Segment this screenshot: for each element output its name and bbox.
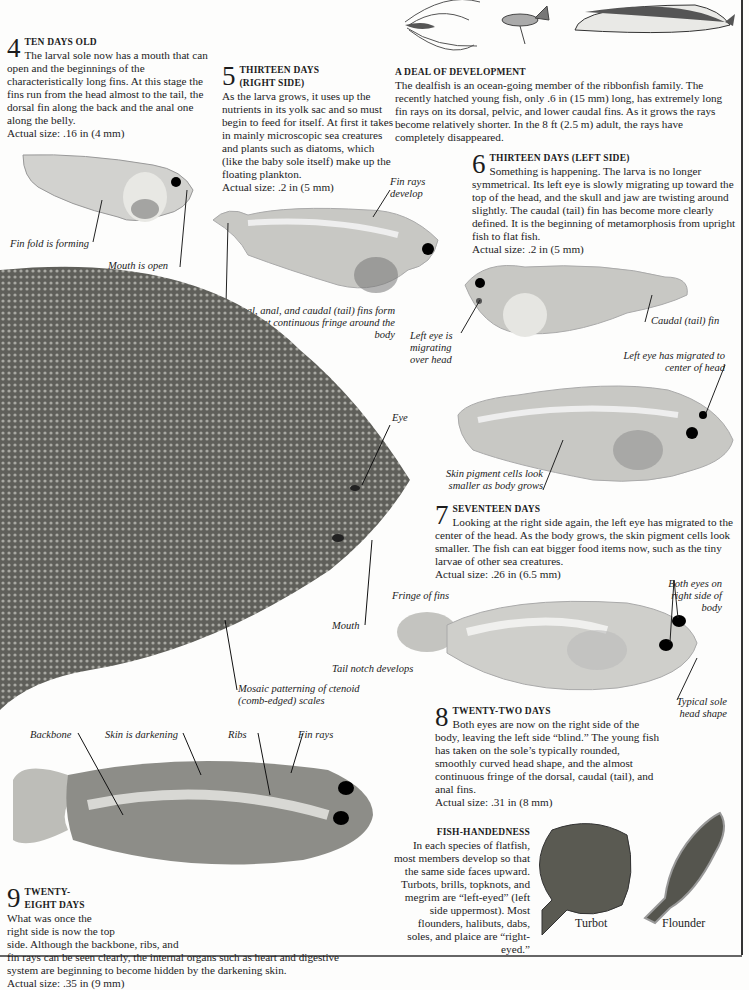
section-body: In each species of flatfish, most member… — [394, 839, 530, 955]
page-right-border — [741, 0, 743, 955]
flounder-caption: Flounder — [662, 917, 705, 930]
label-both-eyes: Both eyes on right side of body — [660, 578, 722, 614]
section-body: Both eyes are now on the right side of t… — [435, 718, 659, 795]
adult-sole — [0, 220, 420, 740]
label-backbone: Backbone — [30, 729, 71, 741]
section-number: 9 — [7, 887, 21, 909]
label-left-eye-center: Left eye has migrated to center of head — [610, 350, 725, 374]
section-number: 6 — [472, 153, 486, 175]
section-body-line: fin rays can be seen clearly, the intern… — [7, 951, 377, 964]
section-body: Looking at the right side again, the lef… — [435, 516, 733, 567]
section-body: The larval sole now has a mouth that can… — [7, 49, 208, 126]
label-skin-darkening: Skin is darkening — [105, 729, 178, 741]
actual-size: Actual size: .16 in (4 mm) — [7, 127, 212, 140]
label-fin-rays: Fin rays — [298, 729, 333, 741]
section-7: 7 SEVENTEEN DAYS Looking at the right si… — [435, 503, 735, 581]
label-eye: Eye — [392, 412, 408, 424]
section-heading: FISH-HANDEDNESS — [390, 826, 530, 839]
section-8: 8 TWENTY-TWO DAYS Both eyes are now on t… — [435, 705, 660, 809]
label-caudal-fin: Caudal (tail) fin — [651, 315, 719, 327]
fish-handedness-section: FISH-HANDEDNESS In each species of flatf… — [390, 826, 530, 956]
section-heading: THIRTEEN DAYS (LEFT SIDE) — [472, 152, 737, 165]
section-heading: THIRTEEN DAYS — [222, 64, 397, 77]
actual-size: Actual size: .31 in (8 mm) — [435, 796, 660, 809]
flounder-illustration — [635, 808, 735, 923]
section-number: 5 — [222, 65, 236, 87]
section-body-line: side. Although the backbone, ribs, and — [7, 938, 377, 951]
section-body: As the larva grows, it uses up the nutri… — [222, 90, 393, 180]
section-number: 7 — [435, 504, 449, 526]
actual-size: Actual size: .35 in (9 mm) — [7, 977, 377, 990]
juvenile-twenty-two-days — [392, 590, 702, 700]
label-sole-head-shape: Typical sole head shape — [672, 696, 727, 720]
actual-size: Actual size: .2 in (5 mm) — [222, 181, 397, 194]
label-mouth: Mouth — [332, 620, 359, 632]
label-fin-rays-develop: Fin rays develop — [390, 176, 440, 200]
section-body-line: right side is now the top — [7, 925, 377, 938]
section-body-line: system are beginning to become hidden by… — [7, 964, 377, 977]
section-heading: TWENTY-TWO DAYS — [435, 705, 660, 718]
section-number: 8 — [435, 706, 449, 728]
section-5: 5 THIRTEEN DAYS (RIGHT SIDE) As the larv… — [222, 64, 397, 194]
section-heading: TEN DAYS OLD — [7, 36, 212, 49]
section-heading-2: EIGHT DAYS — [7, 899, 377, 912]
section-body-line: What was once the — [7, 912, 377, 925]
section-6: 6 THIRTEEN DAYS (LEFT SIDE) Something is… — [472, 152, 737, 256]
dealfish-section: A DEAL OF DEVELOPMENT The dealfish is an… — [395, 66, 735, 144]
dealfish-illustrations — [395, 0, 745, 50]
larva-thirteen-days-left — [455, 255, 695, 355]
turbot-caption: Turbot — [575, 917, 607, 930]
label-tail-notch: Tail notch develops — [332, 663, 413, 675]
section-heading: A DEAL OF DEVELOPMENT — [395, 66, 735, 79]
juvenile-twenty-eight-days — [8, 745, 378, 875]
section-heading: TWENTY- — [7, 886, 377, 899]
section-number: 4 — [7, 37, 21, 59]
section-body: The dealfish is an ocean-going member of… — [395, 79, 722, 143]
turbot-illustration — [532, 815, 632, 930]
section-body: Something is happening. The larva is no … — [472, 165, 735, 242]
label-fringe-of-fins: Fringe of fins — [392, 590, 449, 602]
section-heading: SEVENTEEN DAYS — [435, 503, 735, 516]
label-pigment-cells: Skin pigment cells look smaller as body … — [415, 468, 543, 492]
label-mosaic-scales: Mosaic patterning of ctenoid (comb-edged… — [238, 683, 388, 707]
label-ribs: Ribs — [228, 729, 247, 741]
section-4: 4 TEN DAYS OLD The larval sole now has a… — [7, 36, 212, 140]
section-heading-2: (RIGHT SIDE) — [222, 77, 397, 90]
section-9: 9 TWENTY- EIGHT DAYS What was once the r… — [7, 886, 377, 990]
